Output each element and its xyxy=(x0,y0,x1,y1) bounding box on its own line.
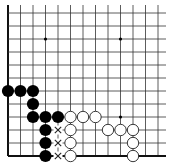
black-stone[interactable] xyxy=(2,85,14,97)
x-mark-icon[interactable] xyxy=(54,152,63,161)
white-stone[interactable] xyxy=(115,124,126,135)
white-stone[interactable] xyxy=(65,111,76,122)
white-stone[interactable] xyxy=(127,124,138,135)
star-point-icon xyxy=(119,115,122,118)
black-stone[interactable] xyxy=(39,111,51,123)
black-stone[interactable] xyxy=(39,124,51,136)
white-stone[interactable] xyxy=(127,137,138,148)
black-stone[interactable] xyxy=(27,85,39,97)
go-board[interactable] xyxy=(0,0,170,168)
black-stone[interactable] xyxy=(27,98,39,110)
black-stone[interactable] xyxy=(27,111,39,123)
black-stone[interactable] xyxy=(52,111,64,123)
grid-lines xyxy=(8,5,166,156)
white-stone[interactable] xyxy=(102,124,113,135)
black-stone[interactable] xyxy=(39,137,51,149)
x-mark-icon[interactable] xyxy=(54,139,63,148)
white-stone[interactable] xyxy=(90,111,101,122)
x-mark-icon[interactable] xyxy=(54,126,63,135)
white-stone[interactable] xyxy=(65,137,76,148)
white-stone[interactable] xyxy=(77,111,88,122)
black-stone[interactable] xyxy=(39,150,51,162)
marks xyxy=(54,126,63,161)
white-stone[interactable] xyxy=(65,150,76,161)
white-stone[interactable] xyxy=(127,150,138,161)
star-point-icon xyxy=(119,37,122,40)
white-stone[interactable] xyxy=(65,124,76,135)
black-stone[interactable] xyxy=(14,85,26,97)
star-point-icon xyxy=(44,37,47,40)
